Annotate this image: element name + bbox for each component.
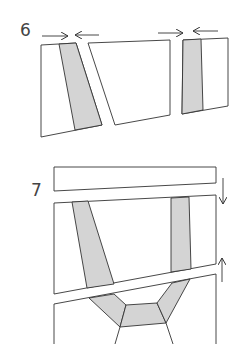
step-7-top-strip	[54, 167, 216, 191]
step-6-arrows	[42, 31, 218, 36]
step-6-right-piece	[182, 38, 228, 114]
step-7-arrows	[222, 178, 223, 282]
diagram-canvas	[0, 0, 246, 344]
step-6-middle-piece	[88, 40, 170, 125]
